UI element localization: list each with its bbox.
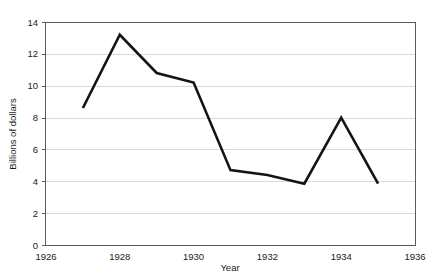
y-tick-label: 6 (33, 144, 38, 155)
x-axis-title: Year (220, 262, 239, 273)
x-tick-label: 1930 (183, 251, 204, 262)
line-chart: 02468101214 192619281930193219341936 Yea… (0, 0, 431, 276)
y-tick-label: 10 (27, 80, 38, 91)
y-tick-label: 4 (33, 176, 38, 187)
x-tick-label: 1928 (109, 251, 130, 262)
x-tick-label: 1926 (35, 251, 56, 262)
x-tick-label: 1934 (331, 251, 352, 262)
x-tick-label: 1936 (404, 251, 425, 262)
y-tick-label: 14 (27, 17, 38, 28)
y-tick-label: 0 (33, 240, 38, 251)
chart-background (0, 0, 431, 276)
y-tick-label: 8 (33, 112, 38, 123)
y-tick-label: 2 (33, 208, 38, 219)
chart-canvas: 02468101214 192619281930193219341936 Yea… (0, 0, 431, 276)
x-tick-label: 1932 (257, 251, 278, 262)
y-axis-title: Billions of dollars (7, 98, 18, 170)
y-tick-label: 12 (27, 48, 38, 59)
